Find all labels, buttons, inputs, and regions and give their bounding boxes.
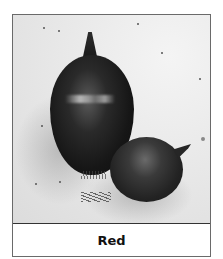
speck [59,181,61,183]
speck [201,137,205,141]
speck [199,78,201,80]
figure-caption: Red [13,224,210,256]
speck [35,183,37,185]
figure-card: Red [12,14,211,257]
onion-roots [81,171,107,179]
speck [161,52,163,54]
speck [137,23,139,25]
small-onion [110,137,183,202]
onion-photo [13,15,210,224]
speck [58,30,60,32]
onion-highlight [65,95,115,103]
speck [41,125,43,127]
speck [43,27,45,29]
onion-roots [81,192,111,202]
